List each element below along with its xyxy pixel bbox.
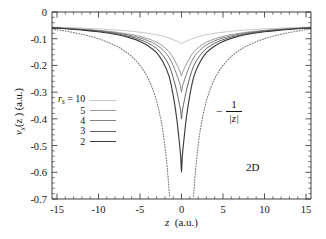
y-tick-label: -0.3 <box>30 87 47 98</box>
legend-swatch <box>90 110 116 111</box>
x-tick-label: 10 <box>259 204 270 215</box>
x-tick-label: 0 <box>179 204 184 215</box>
y-tick-label: -0.6 <box>30 167 47 178</box>
y-tick-label: -0.4 <box>30 113 47 124</box>
curve-r-s-5 <box>52 28 311 76</box>
x-tick-label: -10 <box>91 204 105 215</box>
plot-canvas <box>0 0 326 239</box>
y-tick-label: -0.7 <box>30 194 47 205</box>
legend-item[interactable]: 4 <box>58 116 116 126</box>
legend-swatch <box>90 131 116 132</box>
x-tick-label: -5 <box>136 204 145 215</box>
y-tick-label: -0.5 <box>30 140 47 151</box>
minus-sign: − <box>216 104 223 119</box>
x-axis-title: z (a.u.) <box>52 216 311 228</box>
legend-title-equals: = <box>65 93 76 104</box>
y-tick-label: -0.1 <box>30 33 47 44</box>
y-axis-var: v <box>13 130 24 135</box>
figure-2d-exchange-potential: 0-0.1-0.2-0.3-0.4-0.5-0.6-0.7 -15-10-505… <box>0 0 326 239</box>
legend-item[interactable]: 3 <box>58 126 116 136</box>
x-axis-units: (a.u.) <box>175 216 198 228</box>
legend-swatch <box>90 100 116 101</box>
x-tick-label: 5 <box>220 204 225 215</box>
legend-item[interactable]: 2 <box>58 137 116 147</box>
y-axis-units: (a.u.) <box>13 88 24 110</box>
legend-swatch <box>90 141 116 142</box>
legend: rs = 105432 <box>58 95 116 147</box>
y-axis-argument: (z ) <box>13 113 24 127</box>
asymptote-annotation: − 1 |z| <box>216 99 242 124</box>
x-tick-label: -15 <box>50 204 64 215</box>
x-tick-label: 15 <box>301 204 312 215</box>
legend-item-label: 3 <box>80 126 90 136</box>
y-tick-label: 0 <box>42 7 47 18</box>
fraction-numerator: 1 <box>228 99 240 111</box>
y-tick-label: -0.2 <box>30 60 47 71</box>
legend-swatch <box>90 120 116 121</box>
y-axis-subscript: x <box>18 127 27 130</box>
fraction-denominator: |z| <box>226 112 242 124</box>
panel-label-2d: 2D <box>246 161 259 173</box>
y-axis-title: vx(z ) (a.u.) <box>13 57 26 167</box>
curve-r-s-4 <box>52 28 311 92</box>
legend-value: 10 <box>75 93 85 104</box>
legend-item[interactable]: 5 <box>58 105 116 115</box>
x-axis-var: z <box>165 216 169 228</box>
legend-item[interactable]: rs = 10 <box>58 95 116 105</box>
legend-item-label: 2 <box>80 137 90 147</box>
fraction-one-over-abs-z: 1 |z| <box>226 99 242 124</box>
